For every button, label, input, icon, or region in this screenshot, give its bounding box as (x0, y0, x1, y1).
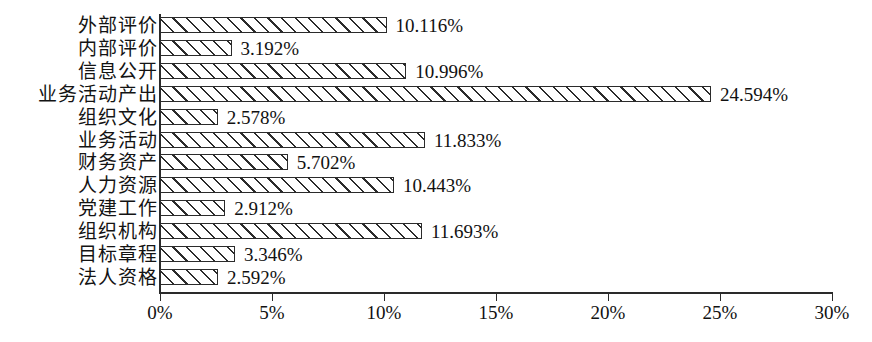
x-tick-mark (496, 294, 497, 301)
bar (160, 177, 394, 193)
bar-row: 人力资源10.443% (0, 174, 872, 197)
bar (160, 132, 425, 148)
bar-row: 组织机构11.693% (0, 220, 872, 243)
bar-value-label: 2.912% (234, 198, 293, 219)
bar-row: 内部评价3.192% (0, 37, 872, 60)
bar (160, 200, 225, 216)
x-tick-mark (608, 294, 609, 301)
bar-value-label: 5.702% (297, 152, 356, 173)
bar-row: 业务活动11.833% (0, 128, 872, 151)
category-label: 组织机构 (78, 220, 158, 241)
category-label: 业务活动产出 (38, 83, 158, 104)
x-tick-mark (160, 294, 161, 301)
bar-value-label: 11.833% (434, 129, 501, 150)
x-tick-label: 15% (479, 302, 514, 324)
category-label: 业务活动 (78, 129, 158, 150)
bar-chart: 0%5%10%15%20%25%30% 外部评价10.116%内部评价3.192… (0, 0, 872, 342)
x-tick-label: 5% (259, 302, 284, 324)
category-label: 信息公开 (78, 61, 158, 82)
category-label: 组织文化 (78, 106, 158, 127)
x-tick-label: 30% (815, 302, 850, 324)
bar-value-label: 3.192% (241, 38, 300, 59)
bar-row: 目标章程3.346% (0, 242, 872, 265)
bar-row: 组织文化2.578% (0, 105, 872, 128)
bar-value-label: 10.116% (396, 15, 463, 36)
bar (160, 246, 235, 262)
category-label: 财务资产 (78, 152, 158, 173)
x-tick-label: 20% (591, 302, 626, 324)
bar-value-label: 11.693% (431, 220, 498, 241)
x-tick-mark (384, 294, 385, 301)
bar (160, 63, 406, 79)
bar-row: 财务资产5.702% (0, 151, 872, 174)
x-tick-label: 25% (703, 302, 738, 324)
bar (160, 223, 422, 239)
bar (160, 154, 288, 170)
bar-value-label: 10.443% (403, 175, 471, 196)
category-label: 内部评价 (78, 38, 158, 59)
category-label: 目标章程 (78, 243, 158, 264)
category-label: 外部评价 (78, 15, 158, 36)
x-tick-label: 0% (147, 302, 172, 324)
bar-value-label: 2.592% (227, 266, 286, 287)
x-tick-mark (272, 294, 273, 301)
bar (160, 109, 218, 125)
x-tick-mark (832, 294, 833, 301)
category-label: 人力资源 (78, 175, 158, 196)
category-label: 党建工作 (78, 198, 158, 219)
bar (160, 17, 387, 33)
category-label: 法人资格 (78, 266, 158, 287)
bar (160, 86, 711, 102)
bar-row: 信息公开10.996% (0, 60, 872, 83)
bar-row: 党建工作2.912% (0, 197, 872, 220)
bar-row: 外部评价10.116% (0, 14, 872, 37)
bar-value-label: 10.996% (415, 61, 483, 82)
bar-value-label: 3.346% (244, 243, 303, 264)
bar-value-label: 2.578% (227, 106, 286, 127)
x-tick-mark (720, 294, 721, 301)
bar-value-label: 24.594% (720, 83, 788, 104)
bar-row: 业务活动产出24.594% (0, 83, 872, 106)
x-tick-label: 10% (367, 302, 402, 324)
bar (160, 40, 232, 56)
bar (160, 269, 218, 285)
bar-row: 法人资格2.592% (0, 265, 872, 288)
